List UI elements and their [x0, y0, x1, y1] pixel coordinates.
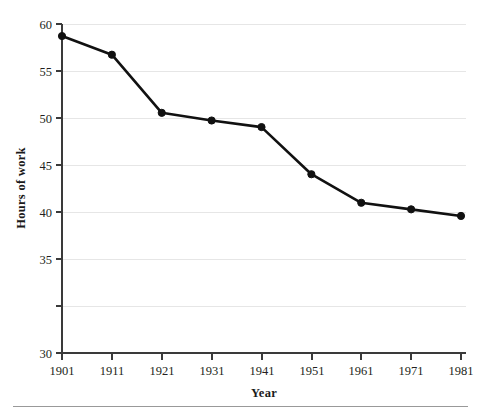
y-tick-marks: [56, 24, 62, 353]
data-point-1901: [58, 32, 65, 39]
data-point-1941: [258, 123, 265, 130]
data-series-markers: [58, 32, 464, 219]
y-axis-title: Hours of work: [14, 147, 28, 229]
data-point-1981: [457, 212, 464, 219]
bottom-divider: [13, 406, 468, 407]
x-tick-label-1921: 1921: [150, 364, 175, 378]
x-tick-label-1971: 1971: [399, 364, 424, 378]
chart-figure: 60 55 50 45 40 35 30 1901 1911 1921 1931: [0, 0, 481, 420]
x-tick-marks: [62, 353, 461, 360]
y-tick-label-50: 50: [40, 112, 53, 126]
y-tick-labels: 60 55 50 45 40 35 30: [40, 18, 53, 361]
x-tick-label-1931: 1931: [200, 364, 225, 378]
x-tick-labels: 1901 1911 1921 1931 1941 1951 1961 1971 …: [50, 364, 474, 378]
x-axis-title: Year: [251, 386, 277, 400]
x-tick-label-1941: 1941: [250, 364, 275, 378]
data-point-1951: [308, 171, 315, 178]
data-point-1961: [358, 199, 365, 206]
x-tick-label-1951: 1951: [300, 364, 325, 378]
x-tick-label-1961: 1961: [349, 364, 374, 378]
x-tick-label-1911: 1911: [100, 364, 125, 378]
data-point-1911: [108, 51, 115, 58]
data-point-1931: [208, 117, 215, 124]
y-tick-label-35: 35: [40, 253, 53, 267]
data-point-1971: [408, 206, 415, 213]
y-tick-label-55: 55: [40, 65, 53, 79]
y-tick-label-30: 30: [40, 347, 53, 361]
y-tick-label-60: 60: [40, 18, 53, 32]
data-point-1921: [158, 109, 165, 116]
y-tick-label-40: 40: [40, 206, 53, 220]
line-chart-canvas: 60 55 50 45 40 35 30 1901 1911 1921 1931: [0, 0, 481, 420]
x-tick-label-1981: 1981: [449, 364, 474, 378]
y-tick-label-45: 45: [40, 159, 53, 173]
x-tick-label-1901: 1901: [50, 364, 75, 378]
